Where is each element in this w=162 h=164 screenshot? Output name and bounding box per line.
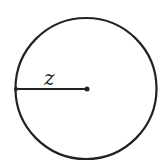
center-point bbox=[85, 87, 90, 92]
edge-point bbox=[14, 87, 18, 91]
circle-diagram: z bbox=[0, 0, 162, 164]
radius-label: z bbox=[43, 66, 55, 90]
